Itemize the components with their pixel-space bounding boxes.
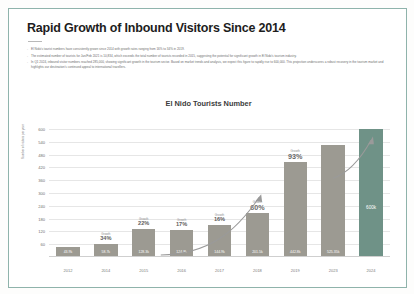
y-axis-tick: 60 (40, 242, 45, 247)
y-axis-tick: 600 (38, 127, 45, 132)
growth-value: 60% (250, 204, 264, 212)
growth-value: 16% (214, 217, 225, 223)
bar-slot[interactable]: Growth34%58.7k (87, 129, 125, 256)
y-axis-tick: 120 (38, 229, 45, 234)
bar-value-label: 600k (366, 205, 376, 256)
bar-value-label: 144.9k (214, 250, 225, 256)
growth-value: 17% (176, 222, 187, 228)
x-axis-tick: 2023 (314, 268, 352, 273)
bar-slot[interactable]: Growth16%144.9k (201, 129, 239, 256)
bullet-marker: - (27, 54, 28, 58)
list-item: - In Q1 2024, inbound visitor numbers re… (27, 60, 392, 69)
x-axis-tick: 2017 (201, 268, 239, 273)
growth-annotation: Growth93% (288, 150, 302, 161)
growth-annotation: Growth17% (176, 219, 187, 228)
bar[interactable]: 525.35k (321, 145, 344, 256)
growth-annotation: Growth34% (100, 233, 111, 242)
bar-value-label: 525.35k (327, 250, 339, 256)
y-axis-label: Number of visitors per year (21, 124, 25, 159)
chart-title: El Nido Tourists Number (23, 99, 394, 108)
x-axis-line (49, 256, 390, 257)
x-axis-tick: 2012 (49, 268, 87, 273)
bar-slot[interactable]: Growth17%124.8k (163, 129, 201, 256)
bar-value-label: 442.8k (290, 250, 301, 256)
bullet-marker: - (27, 60, 28, 69)
title-divider (28, 41, 42, 42)
growth-value: 93% (288, 153, 302, 161)
bar[interactable]: 58.7k (94, 244, 117, 256)
growth-value: 22% (138, 221, 149, 227)
bullet-marker: - (27, 47, 28, 51)
growth-value: 34% (100, 236, 111, 242)
bar[interactable]: 128.3k (132, 229, 155, 256)
x-axis-tick: 2014 (87, 268, 125, 273)
bar-value-label: 43.9k (64, 250, 73, 256)
y-axis-tick: 420 (38, 165, 45, 170)
bar-value-label: 128.3k (138, 250, 149, 256)
growth-annotation: Growth16% (214, 214, 225, 223)
bar[interactable]: 201.5k (246, 213, 269, 256)
x-axis-tick: 2019 (276, 268, 314, 273)
slide-canvas: Rapid Growth of Inbound Visitors Since 2… (0, 0, 414, 294)
bullet-text: The estimated number of tourists for Jan… (31, 54, 392, 58)
list-item: - El Nido's tourist numbers have consist… (27, 47, 392, 51)
bar-slot[interactable]: Growth60%201.5k (238, 129, 276, 256)
bar[interactable]: 600k (359, 129, 382, 256)
y-axis-tick: 240 (38, 203, 45, 208)
y-axis-tick: 180 (38, 216, 45, 221)
bar-value-label: 124.8k (176, 250, 187, 256)
bar-series: 43.9kGrowth34%58.7kGrowth22%128.3kGrowth… (49, 129, 390, 256)
growth-annotation: Growth60% (250, 201, 264, 212)
page-title: Rapid Growth of Inbound Visitors Since 2… (27, 21, 286, 35)
growth-annotation: Growth22% (138, 218, 149, 227)
x-axis-tick: 2024 (352, 268, 390, 273)
x-axis-tick: 2015 (125, 268, 163, 273)
x-axis-tick: 2016 (163, 268, 201, 273)
bar[interactable]: 43.9k (56, 247, 79, 256)
y-axis-tick: 540 (38, 139, 45, 144)
bar[interactable]: 442.8k (284, 162, 307, 256)
bar-slot[interactable]: 525.35k (314, 129, 352, 256)
bar-slot[interactable]: Growth22%128.3k (125, 129, 163, 256)
x-axis-tick: 2018 (238, 268, 276, 273)
bar-slot[interactable]: 43.9k (49, 129, 87, 256)
bar-slot[interactable]: 600k (352, 129, 390, 256)
bar-value-label: 201.5k (252, 250, 263, 256)
bar-value-label: 58.7k (102, 250, 111, 256)
y-axis-tick: 300 (38, 191, 45, 196)
list-item: - The estimated number of tourists for J… (27, 54, 392, 58)
content-card: Rapid Growth of Inbound Visitors Since 2… (8, 8, 407, 288)
bullet-text: El Nido's tourist numbers have consisten… (31, 47, 392, 51)
x-axis-ticks: 201220142015201620172018201920232024 (49, 268, 390, 273)
bullet-text: In Q1 2024, inbound visitor numbers reac… (31, 60, 392, 69)
y-axis-tick: 480 (38, 152, 45, 157)
plot-area: 60120180240300360420480540600 43.9kGrowt… (49, 129, 390, 257)
y-axis-tick: 360 (38, 178, 45, 183)
bar[interactable]: 144.9k (208, 225, 231, 256)
bar[interactable]: 124.8k (170, 230, 193, 256)
bar-chart: El Nido Tourists Number Number of visito… (23, 97, 394, 279)
bullet-list: - El Nido's tourist numbers have consist… (27, 47, 392, 71)
bar-slot[interactable]: Growth93%442.8k (276, 129, 314, 256)
